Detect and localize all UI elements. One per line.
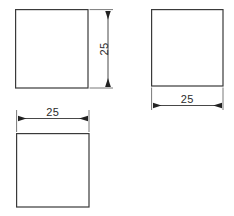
side-view-group: 25 bbox=[152, 10, 223, 110]
top-view-dimension-label: 25 bbox=[46, 106, 59, 118]
front-view-group: 25 bbox=[16, 10, 113, 88]
top-view-group: 25 bbox=[17, 106, 89, 208]
front-view-dimension-label: 25 bbox=[98, 42, 110, 55]
side-view-square bbox=[152, 10, 223, 86]
technical-drawing-canvas: 25 25 25 bbox=[0, 0, 234, 216]
front-view-square bbox=[16, 10, 88, 88]
drawing-svg: 25 25 25 bbox=[0, 0, 234, 216]
side-view-dimension-label: 25 bbox=[181, 93, 194, 105]
top-view-square bbox=[17, 134, 89, 207]
